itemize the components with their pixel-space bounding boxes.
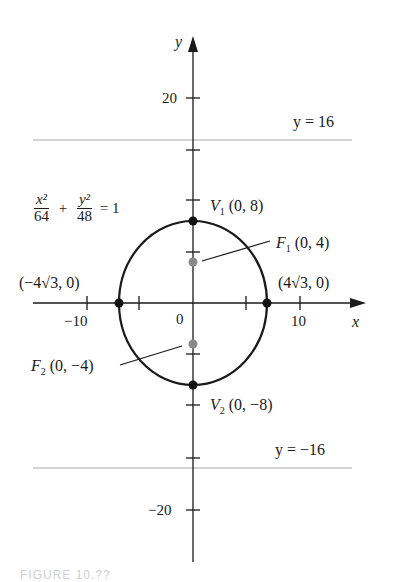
eq-num2: y² [77, 192, 92, 209]
f1-leader-line [202, 241, 270, 261]
eq-plus: + [59, 200, 67, 216]
focus-f2-point [189, 340, 198, 349]
focus-f1-point [189, 258, 198, 267]
directrix-top-label: y = 16 [293, 114, 334, 130]
left-point [115, 299, 124, 308]
f2-leader-line [120, 346, 182, 365]
x-tick-label-10: 10 [291, 314, 306, 329]
vertex-v2-point [189, 381, 198, 390]
x-tick-label-0: 0 [176, 312, 184, 327]
figure-caption: FIGURE 10.?? [20, 568, 111, 582]
v1-label: V1 (0, 8) [210, 198, 263, 217]
directrix-bottom-label: y = −16 [275, 442, 325, 458]
eq-den2: 48 [77, 209, 92, 225]
x-axis-label: x [352, 314, 359, 330]
x-axis-arrow-icon [350, 298, 366, 308]
f1-label: F1 (0, 4) [276, 235, 329, 254]
eq-num1: x² [34, 192, 49, 209]
left-point-label: (−4√3, 0) [19, 275, 79, 291]
right-point [263, 299, 272, 308]
ellipse-equation: x²64 + y²48 = 1 [34, 192, 119, 225]
eq-rhs: = 1 [100, 200, 120, 216]
x-tick-label-neg10: −10 [64, 314, 87, 329]
y-tick-label-20: 20 [162, 91, 177, 106]
y-tick-label-neg20: −20 [148, 503, 171, 518]
right-point-label: (4√3, 0) [278, 275, 329, 291]
y-axis-label: y [175, 34, 182, 50]
y-axis-arrow-icon [188, 36, 198, 52]
vertex-v1-point [189, 217, 198, 226]
v2-label: V2 (0, −8) [210, 397, 272, 416]
eq-den1: 64 [34, 209, 49, 225]
f2-label: F2 (0, −4) [31, 358, 93, 377]
